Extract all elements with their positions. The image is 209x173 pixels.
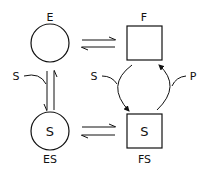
cycle-arc-left <box>118 65 132 111</box>
node-e-circle <box>31 24 69 62</box>
equilibrium-e-es <box>44 70 57 111</box>
node-label-es: ES <box>43 153 57 166</box>
equilibrium-e-f <box>81 37 116 50</box>
substrate-label-left: S <box>13 70 20 83</box>
substrate-left-arrow <box>24 75 46 84</box>
diagram-canvas: E F S S ES S FS S P <box>0 0 209 173</box>
node-label-e: E <box>47 11 54 24</box>
cycle-arc-right <box>157 65 170 110</box>
node-label-f: F <box>141 11 147 24</box>
product-arrow <box>172 76 186 86</box>
node-f-square <box>127 26 162 60</box>
substrate-label-cycle: S <box>91 70 98 83</box>
node-es-inner: S <box>46 124 54 139</box>
node-fs-inner: S <box>140 124 148 139</box>
product-label: P <box>190 70 197 83</box>
substrate-cycle-arrow <box>102 76 117 84</box>
equilibrium-es-fs <box>81 124 116 138</box>
node-label-fs: FS <box>138 153 151 166</box>
